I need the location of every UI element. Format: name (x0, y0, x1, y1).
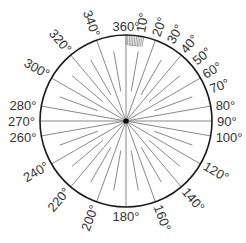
label-120: 120° (201, 159, 232, 185)
label-200: 200° (78, 203, 101, 233)
spoke-220 (71, 121, 126, 187)
short-spoke-210 (91, 147, 111, 182)
label-300: 300° (22, 55, 53, 81)
label-140: 140° (179, 184, 208, 214)
spoke-160 (126, 121, 155, 202)
spoke-20 (126, 40, 155, 121)
center-point (123, 118, 128, 123)
label-180: 180° (113, 209, 140, 224)
short-spoke-150 (141, 147, 161, 182)
label-320: 320° (46, 26, 75, 56)
label-80: 80° (216, 98, 236, 113)
label-240: 240° (20, 159, 51, 185)
label-10: 10° (133, 12, 151, 34)
spoke-320 (71, 55, 126, 121)
label-340: 340° (80, 8, 103, 38)
spoke-40 (126, 55, 181, 121)
short-spoke-10 (131, 52, 138, 92)
label-270: 270° (8, 114, 35, 129)
spoke-340 (97, 40, 126, 121)
label-100: 100° (216, 130, 243, 145)
label-160: 160° (151, 203, 174, 233)
short-spoke-70 (154, 97, 192, 111)
short-spoke-190 (114, 151, 121, 191)
short-spoke-250 (60, 131, 98, 145)
label-90: 90° (217, 114, 237, 129)
short-spoke-110 (154, 131, 192, 145)
compass-diagram: 360°10°20°30°40°50°60°70°80°90°100°120°1… (0, 0, 246, 243)
short-spoke-290 (60, 97, 98, 111)
label-280: 280° (9, 98, 36, 113)
label-260: 260° (9, 130, 36, 145)
label-220: 220° (44, 184, 73, 214)
short-spoke-330 (91, 60, 111, 95)
short-spoke-30 (141, 60, 161, 95)
spoke-200 (97, 121, 126, 202)
short-spoke-170 (131, 151, 138, 191)
short-spoke-350 (114, 52, 121, 92)
spoke-140 (126, 121, 181, 187)
